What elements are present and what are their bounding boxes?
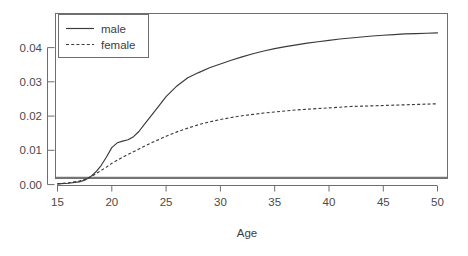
legend-label-male: male: [101, 23, 126, 35]
x-tick-label-45: 45: [377, 196, 390, 208]
chart-container: 15 20 25 30 35 40 45 50 0.00 0.01 0.02 0…: [0, 0, 468, 256]
y-tick-label-0.02: 0.02: [20, 110, 42, 122]
legend: male female: [59, 15, 149, 58]
line-chart: 15 20 25 30 35 40 45 50 0.00 0.01 0.02 0…: [0, 0, 468, 256]
series-line-female: [58, 104, 438, 184]
x-tick-label-50: 50: [431, 196, 444, 208]
y-tick-label-0.00: 0.00: [20, 179, 42, 191]
x-tick-label-40: 40: [323, 196, 336, 208]
legend-box: [59, 15, 149, 58]
y-axis-tick-labels: 0.00 0.01 0.02 0.03 0.04: [20, 42, 43, 191]
x-axis-ticks: [58, 186, 438, 192]
legend-label-female: female: [101, 39, 136, 51]
y-tick-label-0.03: 0.03: [20, 76, 42, 88]
y-axis-ticks: [48, 48, 55, 185]
x-tick-label-25: 25: [160, 196, 173, 208]
x-axis-title: Age: [237, 227, 257, 239]
y-tick-label-0.04: 0.04: [20, 42, 43, 54]
x-tick-label-35: 35: [268, 196, 281, 208]
x-tick-label-15: 15: [51, 196, 64, 208]
y-tick-label-0.01: 0.01: [20, 144, 42, 156]
x-tick-label-30: 30: [214, 196, 227, 208]
x-tick-label-20: 20: [105, 196, 118, 208]
x-axis-tick-labels: 15 20 25 30 35 40 45 50: [51, 196, 444, 208]
